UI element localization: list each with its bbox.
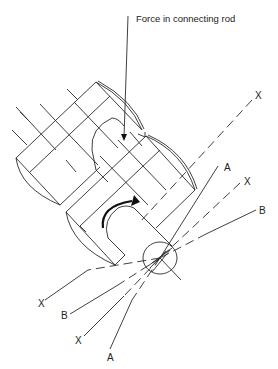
- arrow-down-icon: [121, 16, 128, 141]
- force-label: Force in connecting rod: [136, 14, 235, 24]
- axis-label-b-upper: B: [259, 206, 266, 216]
- axis-label-a-upper: A: [224, 163, 231, 173]
- journal-centre-rays: [148, 248, 172, 272]
- axis-b-b: [70, 210, 256, 314]
- axis-label-x-top-right: X: [255, 91, 262, 101]
- axis-label-x-upper: X: [244, 177, 251, 187]
- main-journal: [106, 206, 177, 274]
- curved-arrow-clockwise-icon: [103, 195, 140, 228]
- shaft-stub-lines: [12, 89, 78, 150]
- axis-label-x-left: X: [38, 299, 45, 309]
- crank-web-upper: [16, 81, 144, 205]
- crankshaft-diagram: Force in connecting rod X A X B X B X A: [0, 0, 278, 369]
- axis-label-a-lower: A: [107, 353, 114, 363]
- axis-label-b-lower: B: [61, 311, 68, 321]
- diagram-drawing: [0, 0, 278, 369]
- axis-label-x-lower: X: [75, 336, 82, 346]
